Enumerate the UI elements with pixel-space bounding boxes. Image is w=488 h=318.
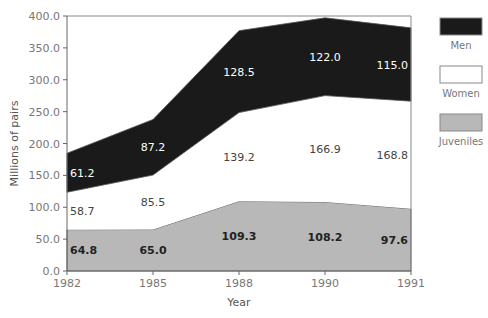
data-label-women: 168.8 (377, 149, 409, 162)
data-label-men: 87.2 (141, 141, 166, 154)
legend-label-juveniles: Juveniles (438, 136, 484, 147)
data-label-juveniles: 64.8 (70, 244, 97, 257)
y-tick-label: 250.0 (29, 106, 61, 119)
data-label-juveniles: 65.0 (139, 244, 166, 257)
data-label-juveniles: 109.3 (222, 230, 257, 243)
x-axis-title: Year (226, 296, 251, 309)
legend-swatch-juveniles (440, 114, 482, 131)
x-tick-label: 1988 (225, 277, 253, 290)
legend-swatch-women (440, 66, 482, 83)
y-tick-label: 350.0 (29, 42, 61, 55)
y-tick-label: 300.0 (29, 74, 61, 87)
data-label-men: 115.0 (377, 59, 409, 72)
y-tick-label: 400.0 (29, 10, 61, 23)
legend-label-women: Women (442, 88, 480, 99)
x-tick-label: 1985 (139, 277, 167, 290)
data-label-women: 58.7 (70, 205, 95, 218)
legend-label-men: Men (450, 40, 471, 51)
data-label-men: 128.5 (223, 66, 255, 79)
data-label-women: 139.2 (223, 151, 255, 164)
data-label-juveniles: 108.2 (308, 231, 343, 244)
x-tick-label: 1982 (53, 277, 81, 290)
y-axis-title: Millions of pairs (8, 100, 21, 186)
data-label-women: 166.9 (309, 143, 341, 156)
data-label-women: 85.5 (141, 196, 166, 209)
y-tick-label: 50.0 (36, 233, 61, 246)
stacked-area-chart: 0.050.0100.0150.0200.0250.0300.0350.0400… (0, 0, 488, 318)
x-tick-label: 1991 (397, 277, 425, 290)
y-tick-label: 200.0 (29, 138, 61, 151)
data-label-men: 122.0 (309, 51, 341, 64)
y-tick-label: 150.0 (29, 169, 61, 182)
data-label-juveniles: 97.6 (381, 234, 408, 247)
y-tick-label: 100.0 (29, 201, 61, 214)
x-tick-label: 1990 (311, 277, 339, 290)
data-label-men: 61.2 (70, 167, 95, 180)
legend-swatch-men (440, 18, 482, 35)
